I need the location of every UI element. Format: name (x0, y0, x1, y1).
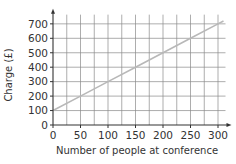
x-tick-label: 200 (153, 129, 173, 141)
y-tick-label: 500 (28, 47, 48, 59)
x-tick-label: 300 (208, 129, 228, 141)
y-tick-label: 0 (41, 119, 48, 131)
y-tick-label: 100 (28, 104, 48, 116)
y-axis-title: Charge (£) (3, 48, 14, 101)
x-tick-label: 250 (180, 129, 200, 141)
x-tick-label: 150 (125, 129, 145, 141)
y-tick-label: 600 (28, 32, 48, 44)
y-tick-labels: 0100200300400500600700 (28, 18, 48, 131)
y-tick-label: 200 (28, 90, 48, 102)
x-tick-label: 0 (50, 129, 57, 141)
gridlines (53, 15, 226, 125)
chart: 0100200300400500600700 05010015020025030… (0, 0, 236, 164)
charge-line (53, 21, 224, 111)
y-tick-label: 300 (28, 75, 48, 87)
y-axis-arrow-icon (51, 9, 55, 14)
x-tick-label: 100 (98, 129, 118, 141)
x-axis-arrow-icon (227, 123, 232, 127)
x-axis-title: Number of people at conference (56, 145, 218, 156)
series-line (53, 21, 224, 111)
x-tick-label: 50 (74, 129, 87, 141)
y-tick-label: 400 (28, 61, 48, 73)
x-tick-labels: 050100150200250300 (50, 129, 228, 141)
y-tick-label: 700 (28, 18, 48, 30)
